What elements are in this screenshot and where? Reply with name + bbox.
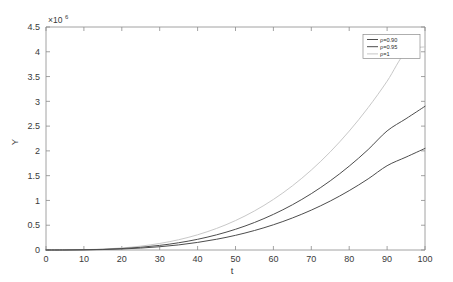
line-chart: 0102030405060708090100 00.511.522.533.54…	[0, 0, 453, 282]
y-axis-tick-labels: 00.511.522.533.544.5	[27, 22, 40, 255]
y-axis-ticks	[46, 27, 425, 250]
y-tick-label: 2	[35, 146, 40, 156]
x-axis-title: t	[231, 265, 234, 276]
y-tick-label: 1.5	[27, 171, 40, 181]
y-axis-exponent-label: ×10 6	[48, 14, 69, 25]
exponent-power: 6	[65, 14, 69, 20]
y-tick-label: 1	[35, 196, 40, 206]
series-curve	[46, 47, 425, 250]
x-tick-label: 30	[155, 254, 165, 264]
x-tick-label: 40	[193, 254, 203, 264]
x-tick-label: 10	[79, 254, 89, 264]
legend-label: ρ=0.90	[380, 37, 397, 43]
x-tick-label: 60	[268, 254, 278, 264]
series-curve	[46, 148, 425, 250]
x-tick-label: 90	[382, 254, 392, 264]
x-tick-label: 20	[117, 254, 127, 264]
exponent-base: ×10	[48, 15, 63, 25]
y-axis-title: Y	[9, 138, 20, 145]
x-tick-label: 80	[344, 254, 354, 264]
x-tick-label: 0	[43, 254, 48, 264]
x-tick-label: 50	[230, 254, 240, 264]
x-axis-tick-labels: 0102030405060708090100	[43, 254, 432, 264]
y-tick-label: 0.5	[27, 220, 40, 230]
y-tick-label: 3.5	[27, 72, 40, 82]
y-tick-label: 2.5	[27, 121, 40, 131]
chart-legend: ρ=0.90ρ=0.95ρ=1	[363, 35, 420, 59]
data-series-group	[46, 47, 425, 250]
legend-label: ρ=0.95	[380, 44, 397, 50]
y-tick-label: 0	[35, 245, 40, 255]
legend-label: ρ=1	[380, 51, 390, 57]
plot-axes-frame	[46, 27, 425, 250]
x-tick-label: 100	[417, 254, 432, 264]
y-tick-label: 4	[35, 47, 40, 57]
x-axis-ticks	[46, 27, 425, 250]
x-tick-label: 70	[306, 254, 316, 264]
y-tick-label: 4.5	[27, 22, 40, 32]
series-curve	[46, 106, 425, 250]
chart-figure: 0102030405060708090100 00.511.522.533.54…	[0, 0, 453, 282]
y-tick-label: 3	[35, 97, 40, 107]
